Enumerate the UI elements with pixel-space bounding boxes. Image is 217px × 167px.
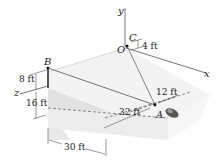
label-y-axis: y: [117, 5, 124, 16]
dim-16ft-tick-bot: [33, 115, 46, 119]
dim-30ft-arrow-b: [86, 149, 105, 154]
label-32ft: 32 ft: [119, 107, 141, 117]
label-O: O: [117, 44, 125, 55]
label-A: A: [155, 109, 163, 120]
label-B: B: [43, 56, 51, 67]
label-z-axis: z: [13, 87, 20, 98]
label-4ft: 4 ft: [142, 41, 158, 51]
dim-4ft-tick2: [131, 47, 142, 50]
point-C-marker: [125, 44, 128, 47]
label-x-axis: x: [204, 68, 210, 79]
point-A-marker: [154, 104, 157, 107]
label-C: C: [129, 32, 137, 43]
z-axis: [20, 86, 48, 94]
statics-diagram: y C O 4 ft x B 8 ft z 16 ft 30 ft 32 ft …: [0, 0, 217, 167]
label-30ft: 30 ft: [64, 142, 86, 152]
label-16ft: 16 ft: [26, 98, 48, 108]
dim-30ft-arrow-a: [49, 140, 62, 144]
label-8ft: 8 ft: [19, 74, 35, 84]
label-12ft: 12 ft: [156, 87, 178, 97]
